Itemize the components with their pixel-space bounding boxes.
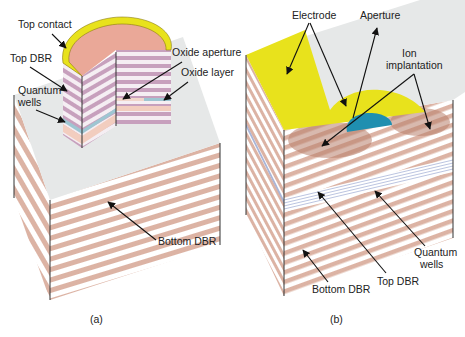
label-top-dbr-b: Top DBR — [377, 275, 419, 287]
label-quantum-wells-b-2: wells — [419, 258, 443, 270]
label-oxide-aperture: Oxide aperture — [172, 46, 242, 58]
label-aperture: Aperture — [360, 9, 400, 21]
panel-a: Top contact Top DBR Quantum wells Oxide … — [10, 17, 242, 325]
label-top-contact: Top contact — [18, 18, 72, 30]
caption-a: (a) — [90, 313, 103, 325]
label-quantum-wells-b-1: Quantum — [414, 246, 457, 258]
label-oxide-layer: Oxide layer — [181, 66, 235, 78]
label-quantum-wells-a-2: wells — [17, 96, 41, 108]
label-quantum-wells-a-1: Quantum — [18, 84, 61, 96]
label-bottom-dbr-a: Bottom DBR — [158, 235, 217, 247]
vcsel-diagram: Top contact Top DBR Quantum wells Oxide … — [0, 0, 465, 337]
panel-b: Electrode Aperture Ion implantation Quan… — [246, 0, 465, 325]
label-bottom-dbr-b: Bottom DBR — [312, 283, 371, 295]
label-ion-implantation-1: Ion — [402, 47, 417, 59]
caption-b: (b) — [330, 313, 343, 325]
label-electrode: Electrode — [292, 9, 337, 21]
mesa-cut-face — [116, 50, 171, 124]
quantum-well-layer-cut — [116, 106, 171, 111]
label-top-dbr-a: Top DBR — [10, 52, 52, 64]
label-ion-implantation-2: implantation — [386, 59, 443, 71]
